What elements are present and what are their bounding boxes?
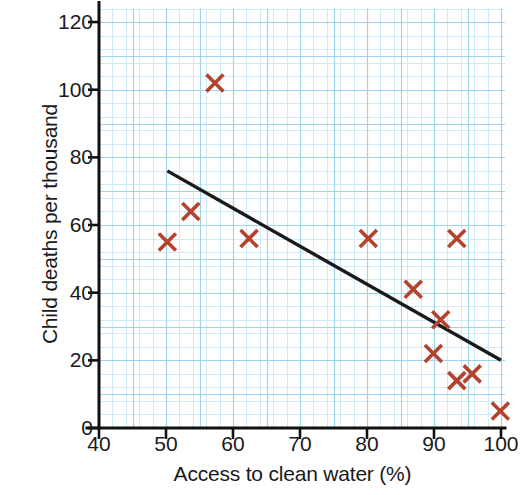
x-tick-label: 60 xyxy=(221,432,244,456)
y-tick-label: 20 xyxy=(70,348,93,372)
y-tick-label: 120 xyxy=(58,10,93,34)
x-tick-label: 50 xyxy=(154,432,177,456)
plot-background xyxy=(99,9,505,428)
y-tick-label: 100 xyxy=(58,78,93,102)
x-tick-label: 80 xyxy=(355,432,378,456)
y-tick-label: 0 xyxy=(81,416,93,440)
x-axis-title: Access to clean water (%) xyxy=(0,462,525,486)
y-tick-label: 80 xyxy=(70,145,93,169)
scatter-chart: Access to clean water (%) Child deaths p… xyxy=(0,0,525,495)
y-tick-label: 60 xyxy=(70,213,93,237)
x-tick-label: 90 xyxy=(422,432,445,456)
y-tick-label: 40 xyxy=(70,281,93,305)
x-tick-label: 70 xyxy=(288,432,311,456)
plot-area-svg xyxy=(0,0,525,495)
x-tick-label: 100 xyxy=(483,432,518,456)
